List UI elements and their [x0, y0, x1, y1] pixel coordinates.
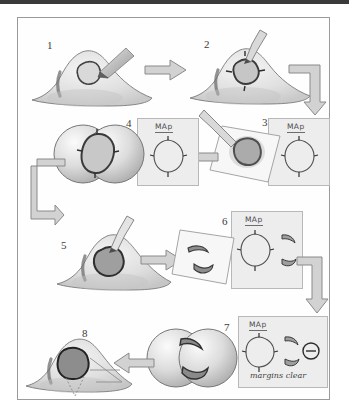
section-crescent-lower	[282, 259, 296, 266]
section-crescent-lower	[285, 359, 299, 366]
margins-clear-label: margins clear	[250, 371, 306, 380]
step-7-illustration	[145, 325, 241, 393]
nose-shadow	[47, 89, 123, 107]
step-8-illustration	[24, 328, 134, 400]
final-defect	[58, 348, 89, 379]
specimen-notch-left	[77, 150, 82, 151]
step-4-illustration	[53, 120, 145, 190]
step-5-number: 5	[61, 240, 67, 251]
score-mark-right	[259, 70, 265, 71]
step-6-illustration	[168, 216, 246, 292]
step-3-number: 3	[262, 117, 268, 128]
map-notch-right	[270, 249, 274, 250]
section-crescent-upper	[285, 337, 298, 345]
arrow-step6-to-step7	[296, 255, 334, 317]
map-outline	[154, 140, 183, 172]
step-7-panel	[145, 325, 241, 393]
map-notch-left	[150, 155, 154, 156]
map-notch-left	[242, 351, 246, 352]
score-mark-bottom	[244, 86, 245, 91]
map-notch-right	[183, 155, 187, 156]
page-top-edge	[0, 0, 349, 4]
map-card-4-label: MAp	[155, 122, 173, 133]
map-notch-right	[314, 155, 318, 156]
map-notch-right	[274, 351, 278, 352]
specimen-notch-right	[114, 151, 119, 152]
step-8-panel	[24, 328, 134, 400]
map-card-7-diagram	[243, 333, 323, 373]
step-1-number: 1	[47, 40, 53, 51]
step-8-number: 8	[82, 328, 88, 339]
second-stage-defect	[94, 247, 124, 276]
arrow-step1-to-step2	[144, 58, 188, 82]
step-2-number: 2	[204, 39, 210, 50]
microscope-right-field	[179, 329, 237, 387]
step-6-number: 6	[222, 216, 228, 227]
step-6-panel	[168, 216, 246, 292]
map-card-6-label: MAp	[245, 215, 263, 226]
section-crescent-upper	[282, 235, 295, 243]
map-outline	[246, 337, 274, 367]
surgery-figure: 1 2	[0, 0, 349, 419]
map-card-4-diagram	[150, 136, 190, 178]
step-4-number: 4	[126, 118, 132, 129]
nose-shadow	[205, 87, 281, 105]
gauze-square	[172, 230, 234, 284]
step-4-panel	[53, 120, 145, 190]
map-card-7-label: MAp	[249, 320, 267, 331]
step-7-number: 7	[224, 322, 230, 333]
map-card-6-diagram	[238, 229, 300, 281]
score-mark-left	[226, 71, 232, 72]
